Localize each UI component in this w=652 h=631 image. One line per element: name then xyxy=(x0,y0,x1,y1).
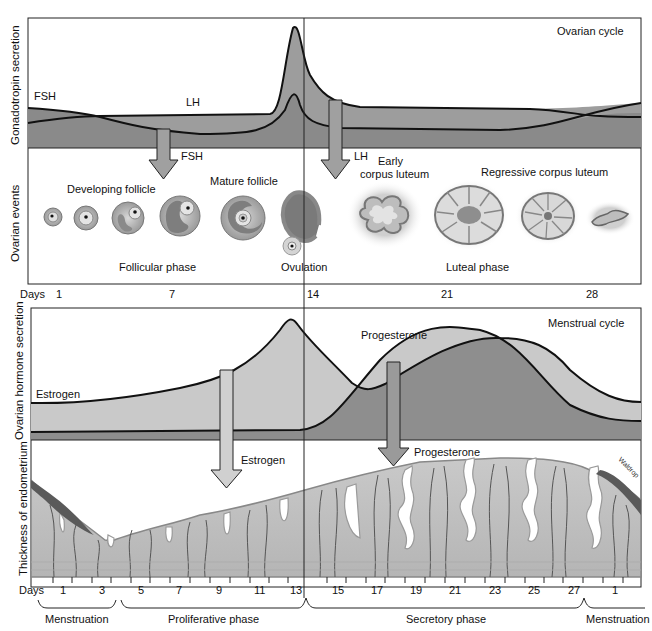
day-tick: 1 xyxy=(56,288,62,300)
estrogen-curve-label: Estrogen xyxy=(36,388,80,400)
follicle-5-mature xyxy=(221,196,265,240)
days-label: Days xyxy=(20,288,46,300)
follicle-2 xyxy=(74,206,98,230)
day-tick: 3 xyxy=(99,584,105,596)
day-tick: 1 xyxy=(60,584,66,596)
lh-arrow-label: LH xyxy=(354,150,368,162)
early-corpus-luteum-label-1: Early xyxy=(378,155,404,167)
day-tick: 23 xyxy=(489,584,501,596)
estrogen-arrow-label: Estrogen xyxy=(241,454,285,466)
day-tick: 14 xyxy=(307,288,319,300)
day-tick: 7 xyxy=(169,288,175,300)
day-tick: 19 xyxy=(410,584,422,596)
day-tick: 17 xyxy=(371,584,383,596)
gonadotropin-secretion-axis-label: Gonadotropin secretion xyxy=(9,25,21,145)
regressing-corpus-luteum xyxy=(515,187,581,245)
menstrual-cycle-panel: Estrogen Progesterone Menstrual cycle xyxy=(13,301,650,625)
menstrual-cycle-title: Menstrual cycle xyxy=(548,317,624,329)
day-tick: 11 xyxy=(254,584,265,596)
ovarian-menstrual-cycle-diagram: FSH LH Ovarian cycle FSH LH Developing f… xyxy=(0,0,652,631)
fsh-arrow-label: FSH xyxy=(181,150,203,162)
ovarian-cycle-panel: FSH LH Ovarian cycle FSH LH Developing f… xyxy=(9,18,641,300)
mature-corpus-luteum xyxy=(429,179,509,251)
day-tick: 25 xyxy=(528,584,540,596)
phase-braces xyxy=(38,598,645,608)
ovarian-events-axis-label: Ovarian events xyxy=(9,184,21,262)
day-tick: 28 xyxy=(586,288,598,300)
ovarian-cycle-title: Ovarian cycle xyxy=(557,25,624,37)
day-tick: 21 xyxy=(441,288,453,300)
lh-curve-label: LH xyxy=(186,96,200,108)
day-tick: 13 xyxy=(290,584,302,596)
menstruation-phase-label: Menstruation xyxy=(45,613,109,625)
developing-follicle-label: Developing follicle xyxy=(67,183,156,195)
regressive-corpus-luteum-label: Regressive corpus luteum xyxy=(481,166,608,178)
proliferative-phase-label: Proliferative phase xyxy=(168,613,259,625)
menstruation-phase-label: Menstruation xyxy=(586,613,650,625)
progesterone-arrow-label: Progesterone xyxy=(414,446,480,458)
day-tick: 5 xyxy=(138,584,144,596)
corpus-albicans xyxy=(585,201,635,235)
days-label: Days xyxy=(19,584,45,596)
early-corpus-luteum xyxy=(347,181,423,249)
top-days-axis: Days 1 7 14 21 28 xyxy=(20,288,598,300)
secretory-phase-label: Secretory phase xyxy=(406,613,486,625)
progesterone-curve-label: Progesterone xyxy=(361,329,427,341)
phase-labels: Menstruation Proliferative phase Secreto… xyxy=(45,613,650,625)
day-tick: 21 xyxy=(449,584,461,596)
early-corpus-luteum-label-2: corpus luteum xyxy=(360,168,429,180)
follicular-phase-label: Follicular phase xyxy=(119,261,196,273)
thickness-of-endometrium-axis-label: Thickness of endometrium xyxy=(17,441,29,576)
fsh-curve-label: FSH xyxy=(34,90,56,102)
follicle-3 xyxy=(112,202,144,234)
follicle-1 xyxy=(44,208,62,226)
day-tick: 27 xyxy=(568,584,580,596)
day-tick: 7 xyxy=(176,584,182,596)
day-tick: 1 xyxy=(612,584,618,596)
day-tick: 9 xyxy=(216,584,222,596)
day-tick: 15 xyxy=(332,584,344,596)
follicle-4 xyxy=(160,196,200,236)
mature-follicle-label: Mature follicle xyxy=(210,175,278,187)
luteal-phase-label: Luteal phase xyxy=(446,261,509,273)
ovarian-hormone-secretion-axis-label: Ovarian hormone secretion xyxy=(13,301,25,440)
